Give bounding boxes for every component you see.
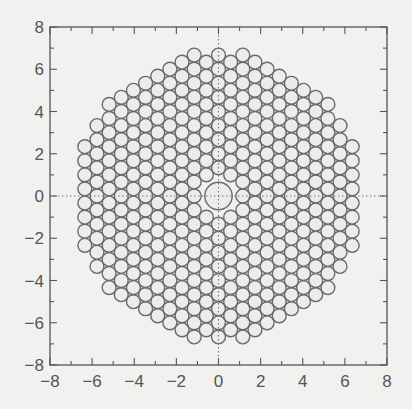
- x-tick-label: 8: [382, 372, 391, 391]
- y-tick-label: 0: [35, 187, 44, 206]
- x-tick-label: −4: [125, 372, 144, 391]
- y-tick-label: 4: [35, 103, 44, 122]
- packing-circle: [345, 154, 359, 168]
- packing-circle: [345, 140, 359, 154]
- y-tick-label: −8: [25, 356, 44, 375]
- packing-circle: [345, 238, 359, 252]
- packing-circle: [333, 260, 347, 274]
- x-tick-label: 4: [298, 372, 307, 391]
- packing-circle: [345, 196, 359, 210]
- packing-circle: [321, 281, 335, 295]
- packing-circle: [345, 168, 359, 182]
- y-tick-label: 2: [35, 145, 44, 164]
- x-tick-label: −6: [82, 372, 101, 391]
- x-tick-label: −2: [167, 372, 186, 391]
- x-axis-tick-labels: −8−6−4−202468: [40, 372, 391, 391]
- packing-circle: [345, 182, 359, 196]
- y-tick-label: −2: [25, 229, 44, 248]
- y-tick-label: 8: [35, 18, 44, 37]
- packing-circle: [345, 210, 359, 224]
- y-axis-tick-labels: −8−6−4−202468: [25, 18, 44, 375]
- packing-chart: −8−6−4−202468 −8−6−4−202468: [0, 0, 412, 409]
- x-tick-label: 0: [214, 372, 223, 391]
- packing-circle: [321, 97, 335, 111]
- packing-circle: [333, 119, 347, 133]
- packing-circle: [345, 224, 359, 238]
- y-tick-label: −6: [25, 314, 44, 333]
- y-tick-label: 6: [35, 60, 44, 79]
- x-tick-label: 2: [256, 372, 265, 391]
- x-tick-label: 6: [340, 372, 349, 391]
- y-tick-label: −4: [25, 272, 44, 291]
